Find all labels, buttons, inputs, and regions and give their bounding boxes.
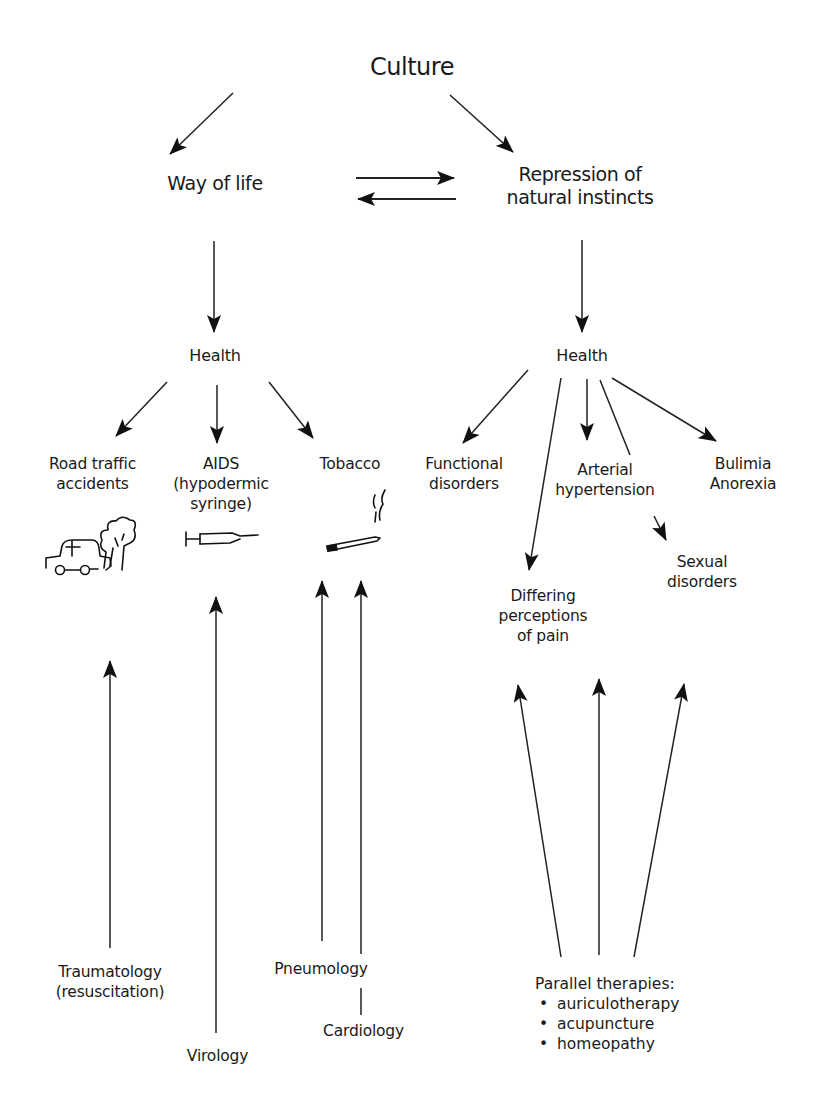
arrow-health-to-road bbox=[116, 382, 167, 436]
node-bulimia-anorexia: Bulimia Anorexia bbox=[703, 455, 783, 495]
node-functional-disorders: Functional disorders bbox=[414, 455, 514, 495]
node-road-traffic-accidents: Road traffic accidents bbox=[35, 455, 150, 495]
arrow-therapies-to-pain bbox=[518, 685, 561, 957]
therapy-item: auriculotherapy bbox=[539, 994, 679, 1014]
node-traumatology: Traumatology (resuscitation) bbox=[45, 963, 175, 1003]
arrow-hypertension-to-sexual bbox=[654, 516, 666, 540]
arrow-health-to-tobacco bbox=[269, 382, 313, 438]
node-sexual-disorders: Sexual disorders bbox=[657, 553, 747, 593]
line-health-to-hypertension-branch bbox=[600, 380, 630, 455]
arrow-health-to-functional bbox=[463, 370, 528, 443]
syringe-icon bbox=[186, 532, 258, 546]
node-way-of-life: Way of life bbox=[110, 172, 320, 195]
therapies-title: Parallel therapies: bbox=[535, 974, 679, 994]
car-and-tree-icon bbox=[46, 517, 135, 574]
node-differing-perceptions-of-pain: Differing perceptions of pain bbox=[488, 587, 598, 646]
node-cardiology: Cardiology bbox=[316, 1022, 411, 1042]
node-repression-natural-instincts: Repression of natural instincts bbox=[480, 163, 680, 209]
arrow-health-to-bulimia bbox=[612, 378, 716, 441]
node-parallel-therapies: Parallel therapies: auriculotherapy acup… bbox=[535, 974, 679, 1055]
node-right-health: Health bbox=[532, 346, 632, 366]
cigarette-icon bbox=[327, 490, 385, 551]
node-pneumology: Pneumology bbox=[266, 960, 376, 980]
therapy-item: homeopathy bbox=[539, 1034, 679, 1054]
node-arterial-hypertension: Arterial hypertension bbox=[550, 461, 660, 501]
therapies-list: auriculotherapy acupuncture homeopathy bbox=[535, 994, 679, 1054]
arrow-culture-to-way-of-life bbox=[170, 93, 233, 154]
culture-health-diagram: Culture Way of life Repression of natura… bbox=[0, 0, 824, 1118]
node-culture: Culture bbox=[322, 52, 502, 83]
node-aids: AIDS (hypodermic syringe) bbox=[166, 455, 276, 514]
node-left-health: Health bbox=[165, 346, 265, 366]
arrow-therapies-to-sexual bbox=[634, 684, 684, 957]
node-virology: Virology bbox=[175, 1047, 260, 1067]
node-tobacco: Tobacco bbox=[310, 455, 390, 475]
arrow-culture-to-repression bbox=[450, 95, 513, 152]
therapy-item: acupuncture bbox=[539, 1014, 679, 1034]
